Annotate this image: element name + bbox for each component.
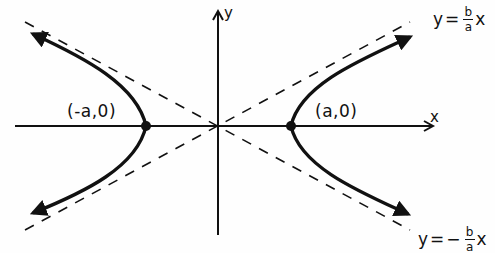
eq-sign: = <box>445 11 459 28</box>
x-axis-label: x <box>430 110 439 125</box>
fraction-b-over-a: b a <box>463 6 473 33</box>
eq-var: x <box>477 231 487 248</box>
frac-numerator: b <box>466 226 474 238</box>
asymptote-label-lower: y = − b a x <box>418 226 487 253</box>
eq-lhs: y <box>433 11 443 28</box>
vertex-left-dot <box>141 121 151 131</box>
y-axis <box>213 11 223 235</box>
y-axis-label: y <box>224 6 233 21</box>
frac-numerator: b <box>465 6 473 18</box>
asymptote-label-upper: y = b a x <box>433 6 485 33</box>
eq-minus: − <box>446 231 460 248</box>
diagram-graphics <box>0 0 495 253</box>
eq-sign: = <box>430 231 444 248</box>
frac-denominator: a <box>466 241 473 253</box>
hyperbola-diagram: y x (-a,0) (a,0) y = b a x y = − b a x <box>0 0 495 253</box>
eq-var: x <box>475 11 485 28</box>
eq-lhs: y <box>418 231 428 248</box>
vertex-right-label: (a,0) <box>315 103 357 120</box>
frac-denominator: a <box>465 21 472 33</box>
x-axis <box>15 121 433 131</box>
vertex-right-dot <box>286 121 296 131</box>
vertex-left-label: (-a,0) <box>67 103 116 120</box>
left-branch <box>33 34 146 213</box>
fraction-b-over-a: b a <box>465 226 475 253</box>
